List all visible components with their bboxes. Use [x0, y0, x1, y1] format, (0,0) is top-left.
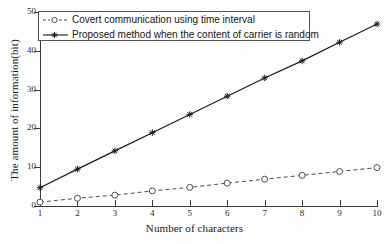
data-point-marker	[262, 176, 268, 182]
data-point-marker	[112, 148, 118, 154]
data-point-marker	[37, 199, 43, 205]
data-point-marker	[224, 180, 230, 186]
data-point-marker	[187, 111, 193, 117]
legend-item-proposed: Proposed method when the content of carr…	[39, 28, 309, 42]
data-point-marker	[261, 75, 267, 81]
y-axis-title: The amount of information(bit)	[8, 10, 20, 210]
legend-label-proposed: Proposed method when the content of carr…	[72, 28, 319, 42]
data-point-marker	[74, 195, 80, 201]
legend-marker-dashed-circle-icon	[43, 13, 69, 27]
chart-figure: 01020304050 12345678910 Covert communica…	[0, 0, 389, 244]
legend-box: Covert communication using time interval…	[38, 11, 310, 41]
data-point-marker	[299, 172, 305, 178]
data-point-marker	[187, 184, 193, 190]
data-point-marker	[336, 39, 342, 45]
x-axis-title: Number of characters	[0, 222, 389, 234]
data-point-marker	[149, 188, 155, 194]
legend-item-covert: Covert communication using time interval	[39, 13, 309, 27]
data-point-marker	[224, 93, 230, 99]
legend-marker-solid-star-icon	[43, 28, 69, 42]
data-point-marker	[112, 192, 118, 198]
legend-label-covert: Covert communication using time interval	[72, 13, 255, 27]
series-line-1	[40, 24, 377, 188]
series-line-0	[40, 168, 377, 203]
data-point-marker	[74, 166, 80, 172]
data-point-marker	[337, 168, 343, 174]
data-point-marker	[149, 129, 155, 135]
data-point-marker	[374, 165, 380, 171]
data-point-marker	[37, 185, 43, 191]
data-point-marker	[374, 21, 380, 27]
data-point-marker	[299, 58, 305, 64]
